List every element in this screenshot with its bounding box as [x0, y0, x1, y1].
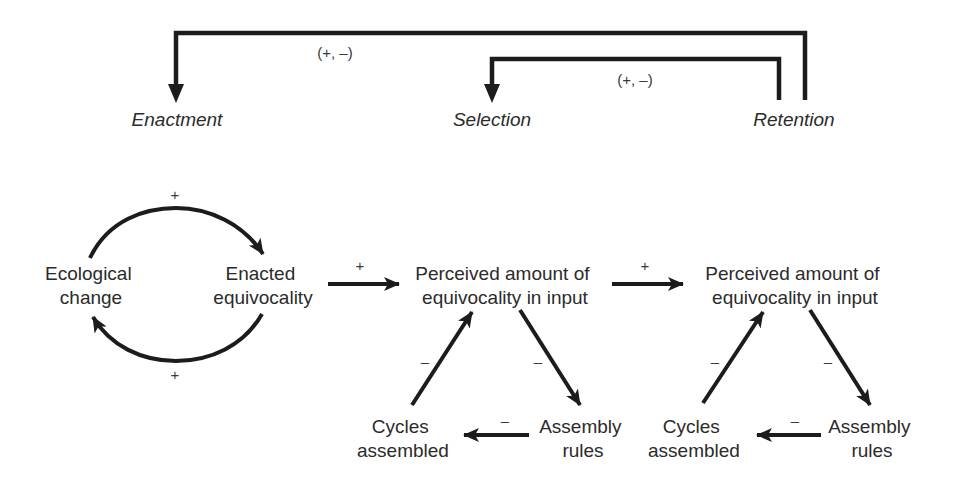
- sign-minus: –: [791, 412, 800, 429]
- sign-plus: +: [171, 366, 180, 383]
- sign-minus: –: [421, 353, 430, 370]
- feedback-retention-to-enactment: (+, –): [168, 33, 805, 103]
- arrow-perceived-to-rules: [520, 310, 580, 405]
- sign-minus: –: [824, 353, 833, 370]
- sign-minus: –: [534, 353, 543, 370]
- retention-cycle: Perceived amount of equivocality in inpu…: [648, 263, 916, 461]
- node-ecological-change: Ecological change: [45, 263, 137, 308]
- enactment-loop: + + Ecological change Enacted equivocali…: [45, 186, 313, 383]
- stage-enactment: Enactment: [132, 109, 224, 130]
- arrow-ecological-to-enacted: [90, 208, 263, 258]
- stage-retention: Retention: [753, 109, 834, 130]
- feedback-label: (+, –): [317, 44, 352, 61]
- node-selection-perceived: Perceived amount of equivocality in inpu…: [415, 263, 595, 308]
- arrow-enacted-to-ecological: [93, 314, 262, 361]
- node-selection-cycles: Cycles assembled: [357, 416, 449, 461]
- arrowhead-icon: [168, 84, 184, 103]
- sensemaking-diagram: (+, –) (+, –) Enactment Selection Retent…: [0, 0, 958, 487]
- sign-plus: +: [171, 186, 180, 203]
- node-retention-rules: Assembly rules: [828, 416, 916, 461]
- sign-plus: +: [641, 257, 650, 274]
- sign-minus: –: [501, 412, 510, 429]
- arrowhead-icon: [484, 84, 500, 103]
- node-selection-rules: Assembly rules: [539, 416, 627, 461]
- sign-plus: +: [356, 257, 365, 274]
- node-enacted-equivocality: Enacted equivocality: [213, 263, 313, 308]
- node-retention-cycles: Cycles assembled: [648, 416, 740, 461]
- selection-cycle: Perceived amount of equivocality in inpu…: [357, 263, 627, 461]
- feedback-label: (+, –): [617, 71, 652, 88]
- node-retention-perceived: Perceived amount of equivocality in inpu…: [705, 263, 885, 308]
- sign-minus: –: [711, 353, 720, 370]
- stage-selection: Selection: [453, 109, 531, 130]
- feedback-retention-to-selection: (+, –): [484, 59, 779, 103]
- arrow-perceived-to-rules: [810, 310, 870, 405]
